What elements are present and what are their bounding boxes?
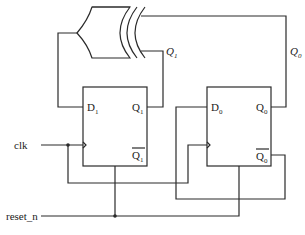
xor-gate xyxy=(77,7,145,58)
label-reset: reset_n xyxy=(6,210,38,222)
wire-xor-to-d1 xyxy=(58,33,83,107)
junction-reset xyxy=(113,214,117,218)
xor-input-curve xyxy=(135,7,145,58)
junction-clk xyxy=(66,143,70,147)
label-clk: clk xyxy=(14,139,28,151)
label-q0-wire: Q0 xyxy=(290,45,302,60)
circuit-diagram: clk reset_n Q1 Q0 D1 Q1 Q1 D0 Q0 Q0 xyxy=(0,0,305,235)
label-q1-wire: Q1 xyxy=(166,45,177,60)
wire-reset xyxy=(41,166,239,216)
